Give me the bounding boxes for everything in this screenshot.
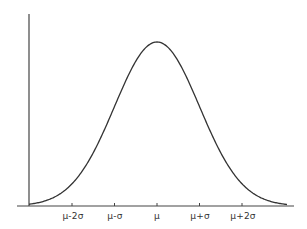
bell-curve xyxy=(29,42,287,205)
tick-label-mu-minus-sigma: μ-σ xyxy=(107,211,122,221)
normal-distribution-chart xyxy=(0,0,307,229)
tick-label-mu-minus-2sigma: μ-2σ xyxy=(62,211,83,221)
tick-label-mu-plus-2sigma: μ+2σ xyxy=(230,211,256,221)
tick-label-mu-plus-sigma: μ+σ xyxy=(190,211,210,221)
tick-label-mu: μ xyxy=(154,211,160,221)
